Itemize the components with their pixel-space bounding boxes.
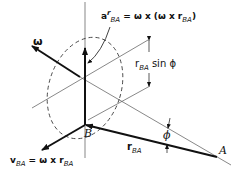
accel-curve-arrow	[88, 27, 110, 63]
r-ba-label: rBA	[127, 142, 142, 155]
omega-axis-line	[80, 77, 231, 165]
radius-label: rBA sin ϕ	[135, 59, 176, 72]
plane-line-lower	[88, 86, 150, 120]
velocity-equation: vBA = ω x rBA	[10, 156, 73, 168]
point-b-label: B	[84, 128, 92, 139]
plane-line-upper	[32, 40, 148, 108]
r-ba-vector	[86, 125, 217, 157]
v-ba-arrow	[42, 125, 85, 150]
phi-label: ϕ	[163, 130, 171, 141]
accel-equation: arBA = ω x (ω x rBA)	[101, 10, 196, 24]
rotation-kinematics-diagram: ω arBA = ω x (ω x rBA) rBA sin ϕ B A ϕ r…	[0, 0, 242, 182]
omega-label: ω	[33, 36, 43, 47]
omega-arrow	[32, 46, 80, 77]
point-a-label: A	[219, 145, 227, 156]
